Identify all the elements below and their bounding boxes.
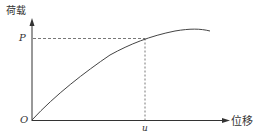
load-displacement-chart: 荷载 P O u 位移 <box>0 0 263 139</box>
x-axis-arrow-icon <box>222 118 230 123</box>
y-axis-arrow-icon <box>30 18 35 26</box>
chart-plot <box>0 0 263 139</box>
y-axis-label: 荷载 <box>6 6 26 16</box>
u-label: u <box>142 124 148 133</box>
x-axis-label: 位移 <box>231 116 253 127</box>
origin-label: O <box>20 115 28 125</box>
p-label: P <box>19 33 26 43</box>
load-curve <box>32 29 210 120</box>
